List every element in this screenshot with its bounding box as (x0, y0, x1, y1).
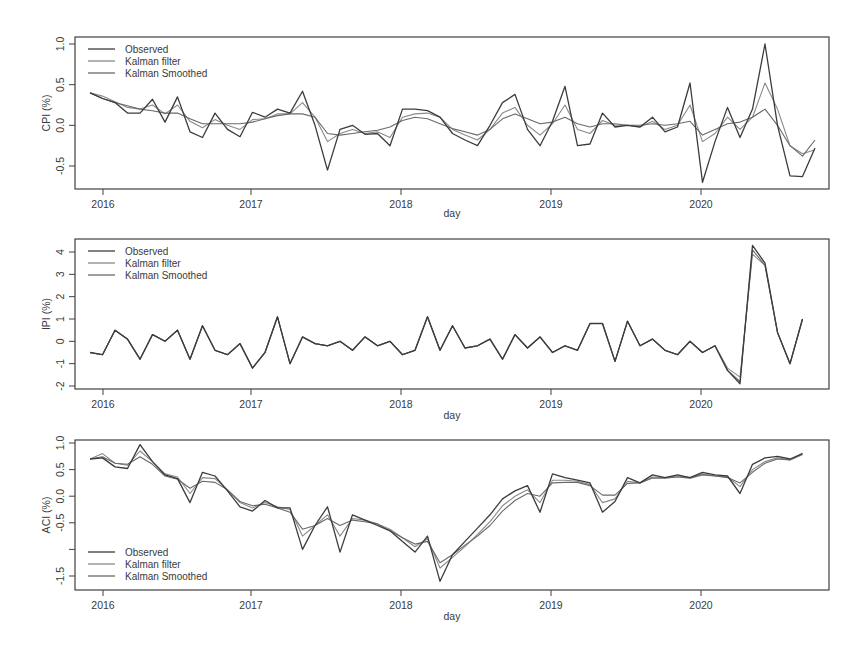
x-tick-label: 2019 (539, 198, 563, 210)
series-kalman-smoothed (90, 93, 815, 156)
x-axis-label: day (444, 409, 462, 421)
y-axis-label: ACI (%) (40, 497, 52, 534)
y-tick-label: 0.0 (54, 489, 66, 504)
series-observed (90, 245, 803, 383)
series-kalman-filter (90, 83, 815, 154)
x-tick-label: 2017 (239, 198, 263, 210)
x-tick-label: 2020 (689, 198, 713, 210)
legend-label: Kalman filter (125, 56, 181, 67)
legend-label: Observed (125, 547, 168, 558)
x-axis-label: day (444, 610, 462, 622)
panel-cpi: -0.50.00.51.0CPI (%)20162017201820192020… (40, 37, 829, 219)
figure-canvas: -0.50.00.51.0CPI (%)20162017201820192020… (0, 0, 868, 651)
series-kalman-smoothed (90, 454, 803, 563)
plot-frame (75, 239, 829, 389)
legend-label: Kalman filter (125, 559, 181, 570)
y-tick-label: 1.0 (54, 436, 66, 451)
x-tick-label: 2020 (689, 398, 713, 410)
x-tick-label: 2019 (539, 599, 563, 611)
y-tick-label: 0.0 (54, 118, 66, 133)
y-tick-label: 0.5 (54, 462, 66, 477)
legend-label: Kalman filter (125, 258, 181, 269)
y-tick-label: -1 (54, 359, 66, 368)
y-tick-label: -0.5 (54, 514, 66, 532)
series-observed (90, 44, 815, 182)
x-tick-label: 2018 (389, 198, 413, 210)
y-tick-label: 1.0 (54, 37, 66, 52)
legend-label: Kalman Smoothed (125, 270, 207, 281)
x-tick-label: 2017 (239, 599, 263, 611)
x-tick-label: 2018 (389, 398, 413, 410)
x-tick-label: 2017 (239, 398, 263, 410)
y-tick-label: 0.5 (54, 77, 66, 92)
legend: ObservedKalman filterKalman Smoothed (88, 547, 207, 582)
y-tick-label: -2 (54, 381, 66, 390)
legend-label: Observed (125, 44, 168, 55)
legend-label: Kalman Smoothed (125, 571, 207, 582)
y-tick-label: 0 (54, 338, 66, 344)
y-axis-label: IPI (%) (40, 298, 52, 330)
x-tick-label: 2016 (91, 198, 115, 210)
series-kalman-filter (90, 451, 803, 568)
panel-aci: -1.5-0.50.00.51.0ACI (%)2016201720182019… (40, 436, 829, 622)
x-tick-label: 2019 (539, 398, 563, 410)
legend: ObservedKalman filterKalman Smoothed (88, 246, 207, 281)
y-tick-label: 4 (54, 249, 66, 255)
y-axis-label: CPI (%) (40, 95, 52, 132)
x-tick-label: 2020 (689, 599, 713, 611)
plot-frame (75, 37, 829, 189)
legend: ObservedKalman filterKalman Smoothed (88, 44, 207, 79)
x-tick-label: 2018 (389, 599, 413, 611)
kalman-figure: -0.50.00.51.0CPI (%)20162017201820192020… (0, 0, 868, 651)
legend-label: Observed (125, 246, 168, 257)
x-tick-label: 2016 (91, 599, 115, 611)
y-tick-label: 2 (54, 294, 66, 300)
x-axis-label: day (444, 207, 462, 219)
y-tick-label: 1 (54, 316, 66, 322)
y-tick-label: 3 (54, 271, 66, 277)
series-observed (90, 445, 803, 582)
legend-label: Kalman Smoothed (125, 68, 207, 79)
y-tick-label: -0.5 (54, 157, 66, 175)
panel-ipi: -2-101234IPI (%)20162017201820192020dayO… (40, 239, 829, 421)
x-tick-label: 2016 (91, 398, 115, 410)
y-tick-label: -1.5 (54, 567, 66, 585)
plot-frame (75, 440, 829, 590)
